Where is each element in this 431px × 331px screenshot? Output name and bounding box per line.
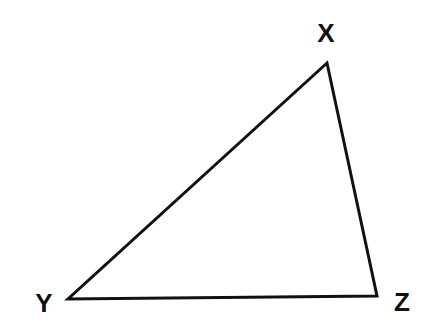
- triangle-xyz: [68, 63, 377, 299]
- vertex-label-z: Z: [394, 287, 410, 317]
- vertex-label-y: Y: [35, 288, 52, 318]
- vertex-label-x: X: [317, 18, 335, 48]
- triangle-diagram: X Y Z: [0, 0, 431, 331]
